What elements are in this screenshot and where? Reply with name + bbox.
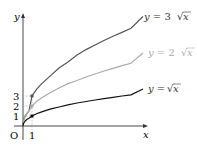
chart-canvas: y x O 1 3 2 1 y = 3 √ x y = 2 √ x y = √ … — [0, 0, 197, 145]
curve-sqrtx — [23, 89, 143, 126]
point-2sqrtx — [31, 105, 34, 108]
point-sqrtx — [31, 115, 34, 118]
y-tick-1: 1 — [13, 111, 19, 122]
point-3sqrtx — [31, 95, 34, 98]
curve-2sqrtx — [23, 53, 143, 126]
svg-text:y =: y = — [147, 83, 165, 94]
svg-text:y = 3: y = 3 — [143, 11, 171, 22]
svg-text:y = 2: y = 2 — [147, 47, 175, 58]
svg-text:x: x — [183, 11, 189, 22]
svg-text:x: x — [173, 83, 179, 94]
label-sqrtx: y = √ x — [147, 83, 181, 94]
label-2sqrtx: y = 2 √ x — [147, 47, 195, 58]
y-axis-arrow-icon — [21, 13, 25, 18]
origin-label: O — [10, 130, 18, 141]
curve-3sqrtx — [23, 17, 143, 127]
svg-text:x: x — [187, 47, 193, 58]
x-axis-arrow-icon — [143, 124, 148, 128]
x-axis-label: x — [143, 129, 149, 140]
x-tick-1: 1 — [29, 130, 35, 141]
y-axis-label: y — [13, 11, 20, 22]
label-3sqrtx: y = 3 √ x — [143, 11, 191, 22]
